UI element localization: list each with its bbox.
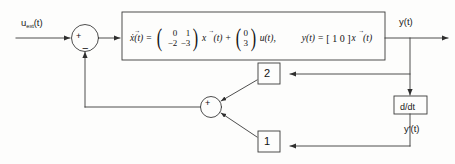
derivative-signal-label: y'(t) xyxy=(404,124,420,134)
feedback-summer-plus-sign: + xyxy=(205,99,210,108)
state-vector-1: x⃗(t) xyxy=(200,33,223,43)
feedback-summer-circle xyxy=(201,97,222,118)
plant-equations: ẋ(t) = ( 01 −2−3 ) x⃗(t) + ( 0 3 ) u(t)… xyxy=(130,22,382,54)
a-matrix-right-paren: ) xyxy=(193,27,198,48)
output-equation: y(t) = [ 1 0 ] x⃗(t) xyxy=(302,33,372,44)
b-cell-0: 0 xyxy=(244,28,249,38)
c-matrix: [ 1 0 ] xyxy=(326,33,350,44)
output-lhs: y(t) xyxy=(302,33,315,43)
gain1-to-summer-wire xyxy=(221,113,257,137)
gain-bottom-label: 1 xyxy=(264,136,270,147)
b-vector-right-paren: ) xyxy=(251,27,256,48)
block-diagram: uext(t) y(t) y'(t) d/dt 2 1 + − + ẋ(t) … xyxy=(0,0,455,164)
a-cell-01: 1 xyxy=(177,28,190,38)
a-matrix-left-paren: ( xyxy=(156,27,161,48)
input-summer-plus-sign: + xyxy=(76,32,81,41)
a-cell-10: −2 xyxy=(164,38,177,48)
input-signal-label: uext(t) xyxy=(21,18,43,29)
output-equals: = xyxy=(315,33,326,43)
state-derivative-lhs: ẋ(t) xyxy=(130,33,143,43)
input-term: u(t), xyxy=(258,33,276,43)
a-cell-11: −3 xyxy=(177,38,190,48)
b-cell-1: 3 xyxy=(244,38,249,48)
state-equation: ẋ(t) = ( 01 −2−3 ) x⃗(t) + ( 0 3 ) u(t)… xyxy=(130,27,276,48)
gain-top-label: 2 xyxy=(264,68,270,79)
output-signal-label: y(t) xyxy=(399,17,413,27)
a-cell-00: 0 xyxy=(164,28,177,38)
state-plus: + xyxy=(222,33,233,43)
input-summer-minus-sign: − xyxy=(82,43,88,54)
a-matrix-row-1: −2−3 xyxy=(164,38,190,48)
b-vector: 0 3 xyxy=(243,28,250,48)
a-matrix: 01 −2−3 xyxy=(163,28,191,48)
gain2-to-summer-wire xyxy=(221,80,257,101)
b-vector-left-paren: ( xyxy=(235,27,240,48)
derivative-block-label: d/dt xyxy=(400,103,415,112)
state-vector-2: x⃗(t) xyxy=(350,33,372,43)
state-equals: = xyxy=(143,33,154,43)
a-matrix-row-0: 01 xyxy=(164,28,190,38)
